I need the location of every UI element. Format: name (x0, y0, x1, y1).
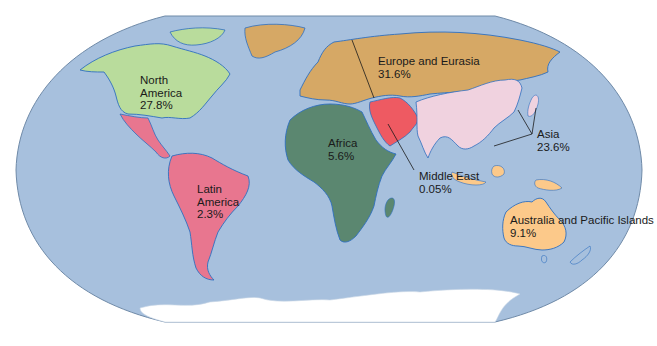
value-north-america: 27.8% (140, 99, 182, 112)
label-latin-america: Latin America 2.3% (197, 183, 239, 221)
value-latin-america: 2.3% (197, 208, 239, 221)
label-north-america: North America 27.8% (140, 74, 182, 112)
value-asia: 23.6% (537, 141, 570, 154)
value-australia-pacific: 9.1% (510, 227, 654, 240)
label-africa: Africa 5.6% (328, 137, 357, 162)
label-asia: Asia 23.6% (537, 128, 570, 153)
value-middle-east: 0.05% (419, 183, 479, 196)
value-europe-eurasia: 31.6% (378, 68, 480, 81)
label-australia-pacific: Australia and Pacific Islands 9.1% (510, 214, 654, 239)
borneo (492, 165, 505, 177)
label-middle-east: Middle East 0.05% (419, 170, 479, 195)
tasmania (541, 255, 546, 262)
value-africa: 5.6% (328, 150, 357, 163)
label-europe-eurasia: Europe and Eurasia 31.6% (378, 55, 480, 80)
world-map (0, 0, 657, 346)
